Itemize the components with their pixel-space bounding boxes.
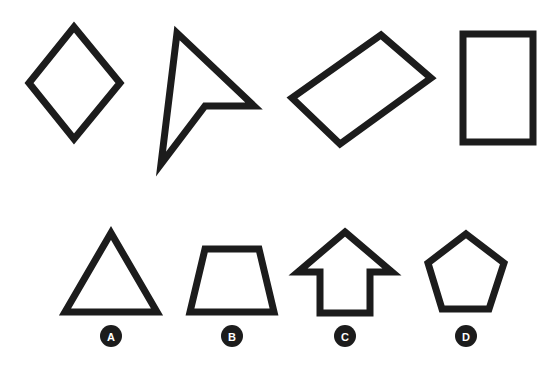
rectangle-icon xyxy=(463,34,533,142)
triangle-icon[interactable] xyxy=(65,233,157,312)
pentagon-icon[interactable] xyxy=(428,234,504,309)
shape-puzzle-canvas: A B C D xyxy=(0,0,557,365)
trapezoid-icon[interactable] xyxy=(190,249,274,312)
rhombus-icon xyxy=(29,27,120,139)
option-d-badge-label: D xyxy=(462,331,470,343)
up-arrow-icon[interactable] xyxy=(298,232,392,313)
shape-layer: A B C D xyxy=(0,0,557,365)
cursor-arrow-icon xyxy=(161,33,254,164)
answer-option-b[interactable]: B xyxy=(190,249,274,347)
option-b-badge-label: B xyxy=(228,331,236,343)
answer-option-a[interactable]: A xyxy=(65,233,157,347)
reference-shape-row xyxy=(29,27,533,164)
answer-option-d[interactable]: D xyxy=(428,234,504,347)
option-a-badge-label: A xyxy=(107,331,115,343)
answer-option-c[interactable]: C xyxy=(298,232,392,347)
tilted-rectangle-icon xyxy=(292,35,431,144)
option-c-badge-label: C xyxy=(341,331,349,343)
answer-option-row: A B C D xyxy=(65,232,504,347)
